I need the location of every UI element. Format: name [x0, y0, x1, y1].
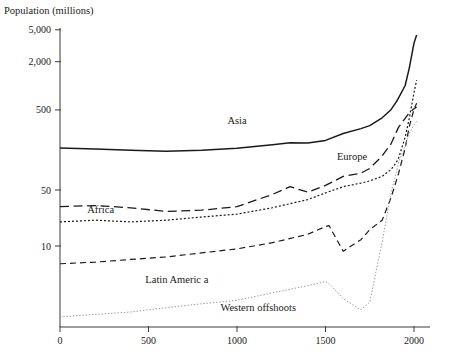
x-axis: 0500100015002000 — [58, 326, 431, 346]
y-tick-label: 10 — [41, 241, 51, 252]
x-tick-label: 500 — [141, 335, 156, 346]
series-label-asia: Asia — [227, 115, 247, 126]
y-axis: 10505002,0005,000 — [29, 24, 62, 327]
series-label-africa: Africa — [87, 204, 114, 215]
y-tick-label: 500 — [36, 104, 51, 115]
y-tick-label: 50 — [41, 185, 51, 196]
series-label-europe: Europe — [337, 151, 368, 162]
chart-title: Population (millions) — [4, 5, 94, 17]
chart-title-group: Population (millions) — [4, 5, 94, 17]
series-label-western-offshoots: Western offshoots — [220, 302, 296, 313]
y-tick-label: 2,000 — [29, 56, 52, 67]
x-tick-label: 2000 — [404, 335, 424, 346]
series-line-asia — [60, 35, 417, 151]
x-tick-label: 0 — [58, 335, 63, 346]
x-tick-label: 1000 — [227, 335, 247, 346]
population-line-chart: Population (millions) 10505002,0005,000 … — [0, 0, 453, 355]
x-tick-label: 1500 — [316, 335, 336, 346]
chart-page: Population (millions) 10505002,0005,000 … — [0, 0, 453, 355]
y-tick-label: 5,000 — [29, 24, 52, 35]
series-label-latin-america: Latin Americ a — [145, 274, 208, 285]
series-labels: AsiaEuropeAfricaLatin Americ aWestern of… — [87, 115, 367, 312]
series-lines — [60, 35, 417, 317]
